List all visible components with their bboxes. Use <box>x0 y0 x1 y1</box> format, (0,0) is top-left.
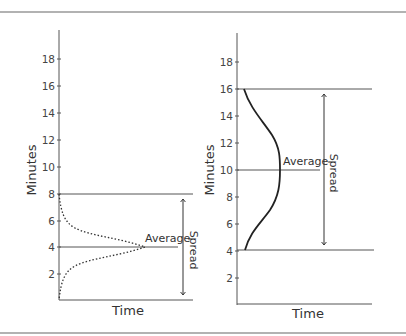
left-x-axis-label: Time <box>111 303 144 318</box>
tick-label: 2 <box>226 272 233 284</box>
tick-label: 8 <box>226 191 233 203</box>
left-average-label: Average <box>145 232 190 245</box>
tick-label: 6 <box>226 218 233 230</box>
tick-label: 6 <box>48 215 55 227</box>
tick-label: 4 <box>48 241 55 253</box>
tick-label: 16 <box>42 80 56 92</box>
tick-label: 12 <box>42 134 55 146</box>
tick-label: 12 <box>220 137 233 149</box>
right-y-ticks: 18 16 14 12 10 8 6 4 2 <box>220 56 239 284</box>
left-y-axis-label: Minutes <box>24 144 39 195</box>
tick-label: 14 <box>42 107 56 119</box>
tick-label: 14 <box>220 110 234 122</box>
tick-label: 2 <box>48 268 55 280</box>
left-y-ticks: 18 16 14 12 10 8 6 4 2 <box>42 53 61 280</box>
tick-label: 18 <box>42 53 55 65</box>
tick-label: 4 <box>226 245 233 257</box>
right-chart: 18 16 14 12 10 8 6 4 2 Minutes Time Aver… <box>202 33 374 321</box>
right-spread-label: Spread <box>327 154 340 193</box>
tick-label: 8 <box>48 188 55 200</box>
tick-label: 10 <box>220 164 233 176</box>
tick-label: 18 <box>220 56 233 68</box>
left-chart: 18 16 14 12 10 8 6 4 2 Minutes Time Aver… <box>24 30 200 318</box>
right-x-axis-label: Time <box>291 306 324 321</box>
right-average-label: Average <box>283 155 328 168</box>
tick-label: 10 <box>42 161 55 173</box>
figure: 18 16 14 12 10 8 6 4 2 Minutes Time Aver… <box>0 0 406 336</box>
tick-label: 16 <box>220 83 234 95</box>
left-spread-label: Spread <box>187 231 200 270</box>
right-y-axis-label: Minutes <box>202 144 217 195</box>
